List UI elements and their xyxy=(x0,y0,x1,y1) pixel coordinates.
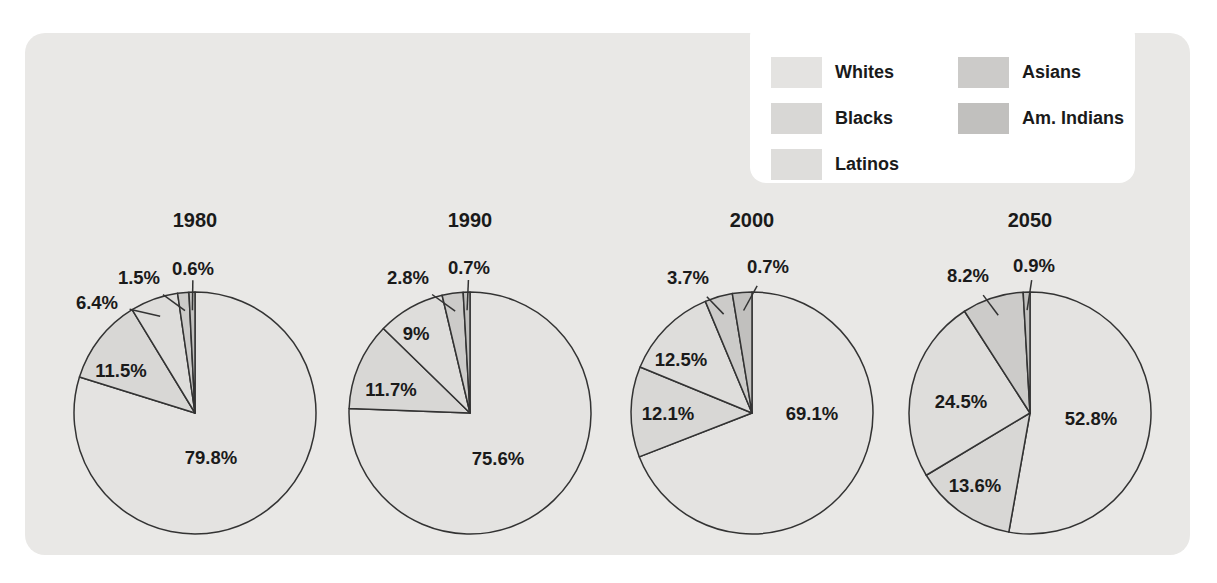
slice-label-1990-latinos: 9% xyxy=(403,323,430,344)
callout-label-1990-am-indians: 0.7% xyxy=(448,257,490,278)
legend-swatch-whites xyxy=(771,57,822,88)
legend-swatch-blacks xyxy=(771,103,822,134)
pie-chart-1990: 75.6%11.7%9%2.8%0.7%1990 xyxy=(330,198,610,548)
legend-label-whites: Whites xyxy=(835,62,894,83)
legend-swatch-latinos xyxy=(771,149,822,180)
pie-chart-1980: 79.8%11.5%6.4%1.5%0.6%1980 xyxy=(55,198,335,548)
pie-svg-2000: 69.1%12.1%12.5%3.7%0.7%2000 xyxy=(612,198,892,548)
pie-year-label: 1980 xyxy=(173,209,218,231)
slice-label-2000-blacks: 12.1% xyxy=(642,403,694,424)
legend-label-latinos: Latinos xyxy=(835,154,899,175)
legend-item-am-indians: Am. Indians xyxy=(958,103,1124,134)
callout-label-1980-am-indians: 0.6% xyxy=(172,258,214,279)
callout-label-2000-asians: 3.7% xyxy=(667,267,709,288)
pie-chart-2050: 52.8%13.6%24.5%8.2%0.9%2050 xyxy=(890,198,1170,548)
callout-label-2050-asians: 8.2% xyxy=(947,265,989,286)
slice-label-2000-latinos: 12.5% xyxy=(655,349,707,370)
slice-label-1990-whites: 75.6% xyxy=(472,448,524,469)
slice-label-2050-latinos: 24.5% xyxy=(935,391,987,412)
legend-item-asians: Asians xyxy=(958,57,1081,88)
legend-label-blacks: Blacks xyxy=(835,108,893,129)
callout-label-2050-am-indians: 0.9% xyxy=(1013,255,1055,276)
legend-label-asians: Asians xyxy=(1022,62,1081,83)
slice-label-1980-whites: 79.8% xyxy=(185,447,237,468)
callout-label-1980-asians: 1.5% xyxy=(118,267,160,288)
pie-svg-2050: 52.8%13.6%24.5%8.2%0.9%2050 xyxy=(890,198,1170,548)
pie-year-label: 1990 xyxy=(448,209,493,231)
pie-year-label: 2050 xyxy=(1008,209,1053,231)
legend-item-whites: Whites xyxy=(771,57,894,88)
slice-label-2050-blacks: 13.6% xyxy=(949,475,1001,496)
callout-label-1990-asians: 2.8% xyxy=(387,267,429,288)
legend-label-am-indians: Am. Indians xyxy=(1022,108,1124,129)
figure-panel: Whites Blacks Latinos Asians Am. Indians… xyxy=(25,33,1190,555)
legend-swatch-am-indians xyxy=(958,103,1009,134)
pie-svg-1980: 79.8%11.5%6.4%1.5%0.6%1980 xyxy=(55,198,335,548)
callout-label-1980-latinos: 6.4% xyxy=(76,292,118,313)
pie-chart-2000: 69.1%12.1%12.5%3.7%0.7%2000 xyxy=(612,198,892,548)
slice-label-2000-whites: 69.1% xyxy=(786,403,838,424)
callout-label-2000-am-indians: 0.7% xyxy=(747,256,789,277)
slice-label-1980-blacks: 11.5% xyxy=(95,360,146,381)
legend-swatch-asians xyxy=(958,57,1009,88)
slice-label-1990-blacks: 11.7% xyxy=(365,379,416,400)
pie-year-label: 2000 xyxy=(730,209,775,231)
pie-svg-1990: 75.6%11.7%9%2.8%0.7%1990 xyxy=(330,198,610,548)
legend-item-blacks: Blacks xyxy=(771,103,893,134)
legend-item-latinos: Latinos xyxy=(771,149,899,180)
slice-label-2050-whites: 52.8% xyxy=(1065,408,1117,429)
legend: Whites Blacks Latinos Asians Am. Indians xyxy=(750,20,1135,183)
